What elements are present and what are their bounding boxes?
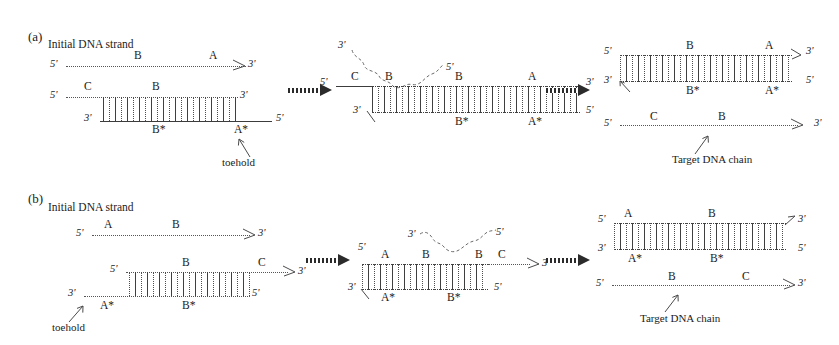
b-s3-domain-A: A: [624, 208, 632, 220]
b-s2-domain-Bstar: B*: [447, 292, 460, 304]
b-s1-toehold-label: toehold: [52, 322, 85, 333]
a-s1-invader-3prime-arrowhead: [232, 58, 248, 72]
a-s1-mid-3prime: 3': [240, 90, 248, 101]
a-s3-released-5prime: 5': [604, 118, 612, 129]
b-s2-bottom-3prime: 3': [348, 282, 356, 293]
b-s3-released-target-strand: [612, 285, 790, 286]
panel-a-tag: (a): [28, 30, 42, 43]
a-s1-toehold-label: toehold: [222, 157, 255, 168]
a-s1-toehold-pointer-icon: [234, 136, 258, 158]
panel-b-caption: Initial DNA strand: [48, 202, 134, 214]
b-s1-domain-C: C: [258, 257, 266, 269]
a-s2-domain-A: A: [528, 71, 536, 83]
b-s1-domain-Astar: A*: [100, 300, 114, 312]
b-s1-domain-A-top: A: [104, 219, 112, 231]
a-s3-released-3prime: 3': [814, 118, 822, 129]
b-s1-invader-strand: [92, 235, 250, 236]
b-s2-domain-B1: B: [422, 249, 430, 261]
a-s3-domain-B-released: B: [718, 111, 726, 123]
b-reaction-arrow-2: [546, 256, 590, 265]
a-s1-domain-Bstar: B*: [152, 124, 165, 136]
b-s1-bot-5prime: 5': [252, 288, 260, 299]
b-s3-duplex-bottom-5prime: 5': [798, 243, 806, 254]
a-s1-domain-C: C: [84, 81, 92, 93]
a-s2-bottom-3prime: 3': [353, 105, 361, 116]
b-s3-released-5prime: 5': [596, 278, 604, 289]
a-s3-domain-A: A: [765, 40, 773, 52]
a-s3-released-3prime-arrowhead: [790, 117, 806, 131]
a-s1-invader-strand: [66, 66, 246, 67]
b-s3-base-pairs: [614, 223, 786, 250]
b-s2-nick-tick-icon: [360, 288, 374, 302]
panel-b-tag: (b): [28, 192, 43, 205]
b-s2-left-5prime: 5': [358, 242, 366, 253]
b-s2-displaced-strand-squiggle: [418, 228, 510, 262]
b-s3-domain-B-released: B: [668, 271, 676, 283]
b-s1-duplex-ladder: [129, 272, 250, 296]
a-s3-base-pairs: [620, 55, 792, 82]
b-s3-domain-B: B: [708, 208, 716, 220]
a-s3-duplex-top-3prime: 3': [806, 46, 814, 57]
b-s2-domain-Astar: A*: [381, 292, 395, 304]
a-s2-domain-C: C: [351, 71, 359, 83]
b-reaction-arrow-1: [306, 256, 350, 265]
b-s3-target-label: Target DNA chain: [640, 313, 720, 324]
a-s1-duplex-ladder: [103, 97, 238, 121]
a-s3-domain-Astar: A*: [765, 85, 779, 97]
b-s3-duplex-3prime-arrowhead: [784, 214, 798, 227]
b-s3-duplex-top-3prime: 3': [798, 214, 806, 225]
a-s2-domain-Astar: A*: [528, 116, 542, 128]
a-s3-released-target-strand: [620, 125, 798, 126]
a-s1-mid-5prime: 5': [50, 90, 58, 101]
b-s1-top-3prime: 3': [258, 228, 266, 239]
b-s1-domain-Bstar: B*: [182, 300, 195, 312]
b-s2-bottom-5prime: 5': [494, 282, 502, 293]
a-s1-substrate-bottom-strand: [100, 121, 272, 122]
b-s1-base-pairs: [129, 272, 250, 296]
b-s1-mid-3prime: 3': [298, 266, 306, 277]
b-s1-domain-B-mid: B: [182, 257, 190, 269]
a-s3-nick-tick-icon: [618, 78, 634, 94]
a-s3-domain-Bstar: B*: [686, 85, 699, 97]
a-s2-displaced-3prime: 3': [338, 40, 346, 51]
b-s2-domain-B2: B: [475, 249, 483, 261]
a-s3-target-pointer-icon: [692, 133, 716, 155]
a-s1-bot-3prime: 3': [84, 113, 92, 124]
b-s2-base-pairs: [362, 264, 488, 290]
figure-dna-strand-displacement: (a) Initial DNA strand 5' 3' B A 5' 3' C…: [0, 0, 839, 345]
a-s1-domain-Astar: A*: [234, 124, 248, 136]
b-s2-duplex-ladder: [362, 264, 488, 290]
a-s3-duplex-bottom-3prime: 3': [604, 75, 612, 86]
b-s3-domain-Astar: A*: [628, 253, 642, 265]
a-s1-domain-B-mid: B: [152, 81, 160, 93]
b-s3-duplex-top-5prime: 5': [598, 214, 606, 225]
b-s3-domain-Bstar: B*: [710, 253, 723, 265]
b-s3-domain-C: C: [742, 271, 750, 283]
a-s3-domain-C: C: [650, 111, 658, 123]
b-s1-domain-B-top: B: [172, 219, 180, 231]
b-s2-3prime-arrowhead: [526, 256, 542, 270]
a-s3-duplex-top-5prime: 5': [604, 46, 612, 57]
a-s2-domain-B1: B: [385, 71, 393, 83]
b-s2-domain-A: A: [381, 249, 389, 261]
a-s3-domain-B: B: [686, 40, 694, 52]
b-s1-invader-3prime-arrowhead: [242, 227, 258, 241]
a-s2-bottom-5prime: 5': [586, 105, 594, 116]
b-s1-mid-5prime: 5': [110, 264, 118, 275]
a-s2-nick-tick-icon: [366, 110, 380, 124]
b-s2-displaced-3prime: 3': [408, 229, 416, 240]
b-s3-target-pointer-icon: [662, 292, 686, 314]
a-s1-top-3prime: 3': [248, 59, 256, 70]
a-s1-bot-5prime: 5': [276, 113, 284, 124]
a-s2-incumbent-overhang: [336, 86, 372, 87]
a-s3-duplex-ladder: [620, 55, 792, 82]
b-s1-bot-3prime: 3': [68, 288, 76, 299]
a-reaction-arrow-2: [546, 86, 590, 95]
b-s3-released-3prime: 3': [798, 278, 806, 289]
b-s3-released-3prime-arrowhead: [782, 277, 798, 291]
panel-a-caption: Initial DNA strand: [48, 39, 134, 51]
a-s1-base-pairs: [103, 97, 238, 121]
b-s2-domain-C: C: [498, 249, 506, 261]
a-s1-top-5prime: 5': [50, 59, 58, 70]
b-s1-substrate-3prime-arrowhead: [282, 264, 298, 278]
